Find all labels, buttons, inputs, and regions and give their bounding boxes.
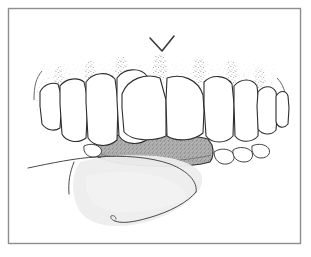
illustration-canvas (0, 0, 311, 257)
tooth-left-central-incisor (122, 76, 166, 140)
tooth-left-molar (40, 83, 62, 130)
tooth-left-premolar (60, 79, 88, 142)
tooth-left-canine (86, 74, 118, 146)
tooth-right-lateral-incisor (204, 77, 234, 142)
dental-illustration-figure: Lower anterior teeth with gingival stipp… (0, 0, 311, 257)
tooth-right-canine (234, 80, 259, 141)
tooth-right-molar (276, 92, 289, 128)
tooth-right-central-incisor (166, 76, 204, 140)
tooth-right-premolar (257, 87, 278, 134)
